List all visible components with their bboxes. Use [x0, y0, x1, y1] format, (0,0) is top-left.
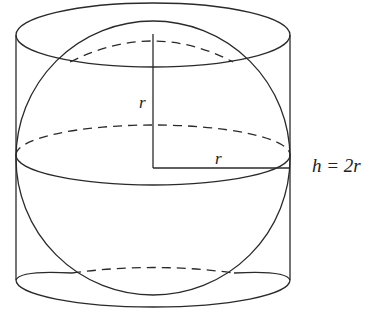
vertical-radius-label: r	[139, 93, 146, 112]
sphere-top-hidden-arc	[70, 41, 233, 62]
height-equation-label: h = 2r	[312, 155, 361, 176]
bottom-ellipse-back-left	[16, 272, 72, 280]
bottom-ellipse-back-dashed	[72, 268, 234, 274]
sphere-in-cylinder-diagram: r r h = 2r	[0, 0, 369, 310]
bottom-ellipse-front	[16, 280, 290, 307]
horizontal-radius-label: r	[215, 149, 222, 168]
bottom-ellipse-back-right	[234, 272, 290, 280]
